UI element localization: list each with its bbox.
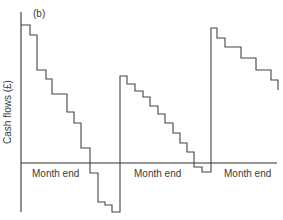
x-tick-label-month-end-1: Month end xyxy=(32,168,79,179)
cash-flow-step-chart: (b) Cash flows (£) Month end Month end M… xyxy=(0,0,283,220)
panel-label: (b) xyxy=(33,8,45,19)
x-tick-label-month-end-2: Month end xyxy=(134,168,181,179)
x-tick-label-month-end-3: Month end xyxy=(224,168,271,179)
cash-flow-series xyxy=(21,25,278,212)
y-axis-label: Cash flows (£) xyxy=(2,80,13,144)
